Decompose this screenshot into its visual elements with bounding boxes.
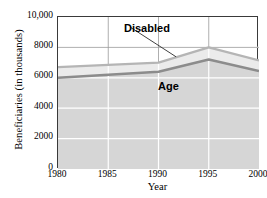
- y-tick-label: 4000: [1, 101, 57, 111]
- x-tick-label: 1985: [84, 169, 130, 179]
- series-label-disabled: Disabled: [124, 22, 170, 34]
- x-axis-title: Year: [55, 181, 260, 192]
- chart-figure: Beneficiaries (in thousands) 10,000 8000…: [0, 0, 267, 198]
- y-tick-label: 10,000: [1, 10, 57, 20]
- y-axis-tick-labels: 10,000 8000 6000 4000 2000 0: [0, 0, 57, 176]
- area-chart-svg: [58, 17, 259, 169]
- y-tick-label: 2000: [1, 131, 57, 141]
- x-tick-label: 1995: [185, 169, 231, 179]
- y-tick-label: 8000: [1, 40, 57, 50]
- x-tick-label: 2000: [235, 169, 267, 179]
- series-label-age: Age: [158, 80, 179, 92]
- plot-area: [57, 16, 258, 168]
- y-tick-label: 6000: [1, 70, 57, 80]
- x-tick-label: 1990: [135, 169, 181, 179]
- x-tick-label: 1980: [34, 169, 80, 179]
